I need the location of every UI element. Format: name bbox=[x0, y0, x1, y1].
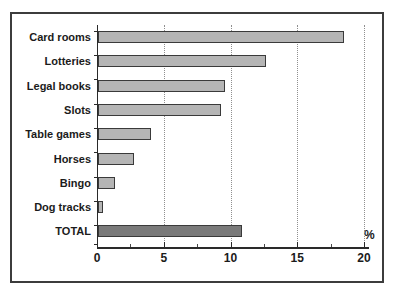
x-tick-20 bbox=[364, 242, 365, 247]
bar-legal-books bbox=[98, 80, 225, 92]
bar-dog-tracks bbox=[98, 201, 103, 213]
bar-horses bbox=[98, 153, 134, 165]
category-label-bingo: Bingo bbox=[12, 177, 91, 189]
x-minor-tick-17.5 bbox=[331, 244, 332, 247]
plot-area: % Card roomsLotteriesLegal booksSlotsTab… bbox=[12, 14, 382, 281]
bar-card-rooms bbox=[98, 31, 344, 43]
bar-total bbox=[98, 225, 242, 237]
category-label-total: TOTAL bbox=[12, 225, 91, 237]
category-label-dog-tracks: Dog tracks bbox=[12, 201, 91, 213]
category-label-slots: Slots bbox=[12, 104, 91, 116]
y-boundary-tick-5 bbox=[94, 152, 97, 153]
x-minor-tick-12.5 bbox=[264, 244, 265, 247]
y-boundary-tick-7 bbox=[94, 201, 97, 202]
bar-table-games bbox=[98, 128, 151, 140]
y-boundary-tick-0 bbox=[94, 31, 97, 32]
category-label-legal-books: Legal books bbox=[12, 80, 91, 92]
x-tick-15 bbox=[297, 242, 298, 247]
x-axis-unit-label: % bbox=[364, 228, 375, 242]
y-boundary-tick-6 bbox=[94, 177, 97, 178]
y-boundary-tick-8 bbox=[94, 225, 97, 226]
category-label-card-rooms: Card rooms bbox=[12, 31, 91, 43]
y-boundary-tick-2 bbox=[94, 79, 97, 80]
gridline-20 bbox=[364, 25, 365, 247]
bar-lotteries bbox=[98, 55, 266, 67]
bar-slots bbox=[98, 104, 221, 116]
category-label-table-games: Table games bbox=[12, 128, 91, 140]
category-label-horses: Horses bbox=[12, 153, 91, 165]
x-tick-label-5: 5 bbox=[149, 251, 179, 265]
y-boundary-tick-3 bbox=[94, 104, 97, 105]
y-boundary-tick-9 bbox=[94, 244, 97, 245]
x-minor-tick-7.5 bbox=[197, 244, 198, 247]
x-tick-label-10: 10 bbox=[216, 251, 246, 265]
x-tick-5 bbox=[164, 242, 165, 247]
x-tick-10 bbox=[231, 242, 232, 247]
bar-bingo bbox=[98, 177, 115, 189]
x-tick-0 bbox=[97, 242, 98, 247]
y-boundary-tick-4 bbox=[94, 128, 97, 129]
chart-frame: % Card roomsLotteriesLegal booksSlotsTab… bbox=[10, 12, 384, 283]
y-boundary-tick-1 bbox=[94, 55, 97, 56]
category-label-lotteries: Lotteries bbox=[12, 55, 91, 67]
x-tick-label-0: 0 bbox=[82, 251, 112, 265]
x-tick-label-15: 15 bbox=[282, 251, 312, 265]
x-tick-label-20: 20 bbox=[349, 251, 379, 265]
x-axis-line bbox=[97, 247, 369, 249]
gridline-15 bbox=[297, 25, 298, 247]
x-minor-tick-2.5 bbox=[130, 244, 131, 247]
